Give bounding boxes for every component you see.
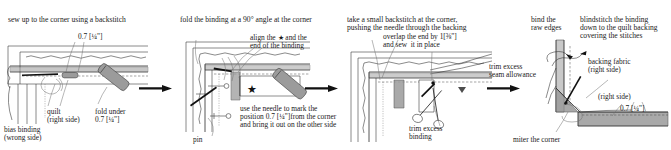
panel-4-bind-raw-edges-label: bind the raw edges [531,16,562,32]
panel-3-miter-label: miter the corner [513,136,560,144]
panel-2-heading: fold the binding at a 90° angle at the c… [180,16,312,24]
panel-4-backing-fabric-label: backing fabric (right side) [588,58,630,74]
flow-arrow-1 [139,85,172,92]
panel-1-heading: sew up to the corner using a backstitch [8,16,126,24]
star-icon: ★ [247,83,257,95]
flow-arrow-2 [305,85,338,92]
panel-1-seam-allowance-label: 0.7 [¼"] [78,33,103,41]
panel-1-quilt-label: quilt (right side) [47,108,80,124]
panel-4-drawing [546,40,668,132]
flow-arrow-3 [487,85,520,92]
panel-4-heading: blindstitch the binding down to the quil… [580,16,658,41]
pin-icon [210,113,231,119]
panel-1-fold-under-label: fold under 0.7 [¼"] [95,108,126,124]
panel-3-trim-binding-label: trim excess binding [409,125,442,141]
pin-icon [208,84,229,89]
panel-2-needle-mark-label: use the needle to mark the position 0.7 … [240,105,336,129]
panel-2-pin-label: pin [193,136,202,144]
panel-3-overlap-label: overlap the end by 1[⅜"] and sew it in p… [383,33,457,49]
panel-1-bias-binding-label: bias binding (wrong side) [4,126,42,142]
panel-2-align-star-label: align the ★ and the end of the binding [250,34,307,50]
panel-4-binding-width-label: 0.7 [¼"] [620,105,645,113]
instruction-diagram: ★ [0,0,671,150]
panel-4-right-side-label: (right side) [598,93,631,101]
panel-3-heading: take a small backstitch at the corner, p… [347,16,467,32]
panel-3-trim-seam-label: trim excess seam allowance [489,63,536,79]
